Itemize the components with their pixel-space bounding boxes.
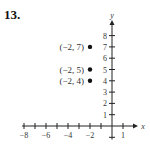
x-tick-label: −6 <box>42 131 51 140</box>
x-axis-label: x <box>140 122 145 131</box>
y-tick-label: 3 <box>103 88 107 97</box>
data-point <box>88 45 92 49</box>
y-tick-label: 2 <box>103 99 107 108</box>
y-axis-arrow-icon <box>110 20 115 25</box>
data-point <box>88 79 92 83</box>
data-point <box>88 67 92 71</box>
x-tick-label: −4 <box>64 131 73 140</box>
y-tick-label: 7 <box>103 43 107 52</box>
x-axis-arrow-icon <box>133 124 138 129</box>
x-tick-label: 1 <box>121 131 125 140</box>
y-tick-label: 1 <box>103 111 107 120</box>
y-tick-label: 5 <box>103 66 107 75</box>
y-tick-label: 6 <box>103 54 107 63</box>
x-tick-label: −8 <box>20 131 29 140</box>
data-point-label: (−2, 5) <box>59 65 84 75</box>
coordinate-plane: −8−6−4−2112345678xy(−2, 7)(−2, 5)(−2, 4) <box>0 0 150 153</box>
data-point-label: (−2, 7) <box>59 42 84 52</box>
x-tick-label: −2 <box>86 131 95 140</box>
y-axis-label: y <box>109 11 114 20</box>
data-point-label: (−2, 4) <box>59 76 84 86</box>
y-tick-label: 4 <box>103 77 107 86</box>
y-tick-label: 8 <box>103 32 107 41</box>
